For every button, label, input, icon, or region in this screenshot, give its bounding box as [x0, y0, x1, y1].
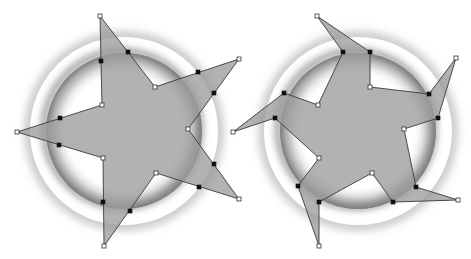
anchor-point-handle[interactable]: [231, 130, 235, 134]
control-point-handle[interactable]: [391, 200, 395, 204]
control-point-handle[interactable]: [128, 209, 132, 213]
anchor-point-handle[interactable]: [237, 197, 241, 201]
anchor-point-handle[interactable]: [15, 130, 19, 134]
control-point-handle[interactable]: [427, 92, 431, 96]
control-point-handle[interactable]: [99, 59, 103, 63]
control-point-handle[interactable]: [101, 200, 105, 204]
control-point-handle[interactable]: [436, 116, 440, 120]
anchor-point-handle[interactable]: [101, 156, 105, 160]
control-point-handle[interactable]: [58, 116, 62, 120]
control-point-handle[interactable]: [282, 91, 286, 95]
anchor-point-handle[interactable]: [402, 127, 406, 131]
control-point-handle[interactable]: [126, 50, 130, 54]
anchor-point-handle[interactable]: [100, 103, 104, 107]
anchor-point-handle[interactable]: [370, 171, 374, 175]
figure-canvas: [0, 0, 471, 259]
control-point-handle[interactable]: [212, 162, 216, 166]
anchor-point-handle[interactable]: [456, 198, 460, 202]
control-point-handle[interactable]: [341, 50, 345, 54]
control-point-handle[interactable]: [317, 200, 321, 204]
anchor-point-handle[interactable]: [237, 57, 241, 61]
anchor-point-handle[interactable]: [368, 85, 372, 89]
control-point-handle[interactable]: [414, 185, 418, 189]
anchor-point-handle[interactable]: [154, 171, 158, 175]
anchor-point-handle[interactable]: [317, 156, 321, 160]
anchor-point-handle[interactable]: [317, 244, 321, 248]
control-point-handle[interactable]: [57, 143, 61, 147]
control-point-handle[interactable]: [197, 185, 201, 189]
anchor-point-handle[interactable]: [186, 127, 190, 131]
control-point-handle[interactable]: [368, 50, 372, 54]
pinwheel-star-panel: [231, 14, 460, 248]
anchor-point-handle[interactable]: [454, 56, 458, 60]
control-point-handle[interactable]: [196, 70, 200, 74]
anchor-point-handle[interactable]: [153, 85, 157, 89]
anchor-point-handle[interactable]: [316, 103, 320, 107]
control-point-handle[interactable]: [296, 184, 300, 188]
straight-star-panel: [15, 14, 241, 248]
anchor-point-handle[interactable]: [98, 14, 102, 18]
control-point-handle[interactable]: [212, 91, 216, 95]
anchor-point-handle[interactable]: [102, 244, 106, 248]
anchor-point-handle[interactable]: [315, 14, 319, 18]
control-point-handle[interactable]: [273, 116, 277, 120]
